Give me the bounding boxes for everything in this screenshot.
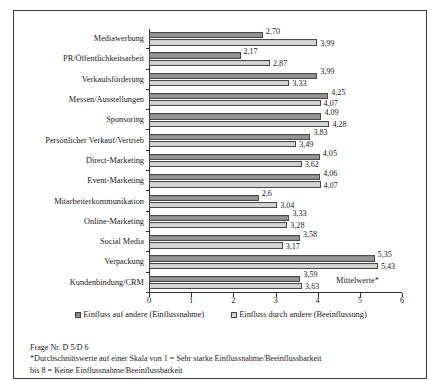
bar-rows-container: Mediawerbung2,703,99PR/Öffentlichkeitsar…: [149, 29, 402, 293]
chart-legend: Einfluss auf andere (Einflussnahme) Einf…: [14, 310, 428, 319]
bar-einflussnahme: [149, 255, 375, 261]
category-label: Mediawerbung: [94, 35, 144, 43]
bar-value-label: 3,62: [305, 161, 319, 169]
category-label: Persönlicher Verkauf/Vertrieb: [45, 136, 144, 144]
bar-pair: 5,355,43: [149, 252, 402, 272]
bar-value-label: 3,33: [292, 210, 306, 218]
bar-row: Social Media3,583,17: [149, 232, 402, 252]
bar-value-label: 3,99: [320, 68, 334, 76]
category-label: Social Media: [100, 238, 144, 246]
bar-value-label: 3,58: [303, 231, 317, 239]
x-tick-label: 5: [358, 297, 362, 305]
bar-pair: 3,583,17: [149, 232, 402, 252]
category-label: Event-Marketing: [87, 177, 144, 185]
footnote-block: Frage Nr. D 5/D 6 *Durchschnittswerte au…: [30, 342, 420, 376]
category-label: Online-Marketing: [84, 218, 144, 226]
bar-value-label: 3,99: [320, 40, 334, 48]
bar-value-label: 4,28: [332, 121, 346, 129]
bar-beeinflussung: [149, 39, 317, 45]
bar-row: Sponsoring4,094,28: [149, 110, 402, 130]
bar-row: Direct-Marketing4,053,62: [149, 151, 402, 171]
bar-value-label: 4,09: [324, 109, 338, 117]
bar-value-label: 4,25: [331, 89, 345, 97]
legend-label-einflussnahme: Einfluss auf andere (Einflussnahme): [83, 310, 204, 319]
category-label: Direct-Marketing: [86, 157, 144, 165]
bar-value-label: 4,07: [324, 182, 338, 190]
x-axis-title: Mittelwerte*: [336, 277, 379, 285]
bar-pair: 3,993,33: [149, 70, 402, 90]
bar-pair: 2,172,87: [149, 49, 402, 69]
x-tick-label: 6: [400, 297, 404, 305]
bar-pair: 4,094,28: [149, 110, 402, 130]
bar-pair: 3,333,28: [149, 212, 402, 232]
bar-value-label: 3,83: [313, 129, 327, 137]
x-tick-label: 2: [231, 297, 235, 305]
bar-pair: 4,064,07: [149, 171, 402, 191]
category-label: Verkaufsförderung: [82, 76, 144, 84]
category-label: Messen/Ausstellungen: [69, 96, 144, 104]
bar-pair: 2,703,99: [149, 29, 402, 49]
legend-item-beeinflussung: Einfluss durch andere (Beeinflussung): [231, 310, 366, 319]
bar-row: Verkaufsförderung3,993,33: [149, 70, 402, 90]
legend-label-beeinflussung: Einfluss durch andere (Beeinflussung): [239, 310, 366, 319]
footnote-line-scale-top: *Durchschnittswerte auf einer Skala von …: [30, 353, 420, 364]
bar-beeinflussung: [149, 100, 321, 106]
chart-frame: Mediawerbung2,703,99PR/Öffentlichkeitsar…: [13, 10, 427, 379]
x-tick-label: 0: [147, 297, 151, 305]
category-label: Mitarbeiterkommunikation: [54, 197, 144, 205]
bar-row: PR/Öffentlichkeitsarbeit2,172,87: [149, 49, 402, 69]
legend-swatch-icon-beeinflussung: [231, 312, 237, 318]
bar-value-label: 2,87: [273, 60, 287, 68]
bar-pair: 2,63,04: [149, 191, 402, 211]
bar-value-label: 2,17: [244, 48, 258, 56]
bar-row: Messen/Ausstellungen4,254,07: [149, 90, 402, 110]
bar-beeinflussung: [149, 242, 283, 248]
bar-einflussnahme: [149, 93, 328, 99]
x-tick-label: 4: [316, 297, 320, 305]
bar-value-label: 3,49: [299, 141, 313, 149]
legend-swatch-icon-einflussnahme: [75, 312, 81, 318]
bar-einflussnahme: [149, 32, 263, 38]
bar-pair: 4,053,62: [149, 151, 402, 171]
bar-beeinflussung: [149, 222, 287, 228]
bar-einflussnahme: [149, 215, 289, 221]
bar-beeinflussung: [149, 121, 329, 127]
bar-beeinflussung: [149, 202, 277, 208]
bar-row: Verpackung5,355,43: [149, 252, 402, 272]
legend-item-einflussnahme: Einfluss auf andere (Einflussnahme): [75, 310, 204, 319]
bar-value-label: 3,17: [286, 243, 300, 251]
bar-row: Mitarbeiterkommunikation2,63,04: [149, 191, 402, 211]
bar-pair: 3,833,49: [149, 130, 402, 150]
bar-row: Event-Marketing4,064,07: [149, 171, 402, 191]
bar-value-label: 3,59: [303, 271, 317, 279]
category-label: Kundenbindung/CRM: [70, 279, 144, 287]
bar-value-label: 3,63: [305, 283, 319, 291]
bar-value-label: 3,33: [292, 80, 306, 88]
bar-beeinflussung: [149, 141, 296, 147]
bar-value-label: 2,6: [262, 190, 272, 198]
bar-beeinflussung: [149, 181, 321, 187]
bar-einflussnahme: [149, 174, 320, 180]
bar-beeinflussung: [149, 161, 302, 167]
category-label: Sponsoring: [106, 116, 144, 124]
bar-value-label: 2,70: [266, 28, 280, 36]
bar-row: Persönlicher Verkauf/Vertrieb3,833,49: [149, 130, 402, 150]
bar-pair: 4,254,07: [149, 90, 402, 110]
bar-row: Online-Marketing3,333,28: [149, 212, 402, 232]
x-tick-label: 3: [273, 297, 277, 305]
bar-einflussnahme: [149, 73, 317, 79]
footnote-line-question: Frage Nr. D 5/D 6: [30, 342, 420, 353]
x-tick-label: 1: [189, 297, 193, 305]
bar-einflussnahme: [149, 154, 320, 160]
bar-beeinflussung: [149, 60, 270, 66]
footnote-line-scale-bottom: bis 8 = Keine Einflussnahme/Beeinflussba…: [30, 365, 420, 376]
category-label: Verpackung: [104, 258, 144, 266]
bar-einflussnahme: [149, 276, 300, 282]
category-label: PR/Öffentlichkeitsarbeit: [63, 55, 144, 63]
bar-value-label: 4,05: [323, 150, 337, 158]
bar-beeinflussung: [149, 263, 378, 269]
bar-value-label: 5,43: [381, 263, 395, 271]
bar-row: Mediawerbung2,703,99: [149, 29, 402, 49]
bar-chart-plot: Mediawerbung2,703,99PR/Öffentlichkeitsar…: [14, 11, 428, 380]
bar-einflussnahme: [149, 113, 321, 119]
